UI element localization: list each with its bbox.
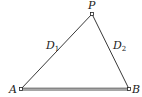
edge-d1-label: D1: [46, 40, 59, 53]
point-b-marker: [128, 88, 131, 91]
point-p-label: P: [88, 0, 95, 11]
point-p-marker: [91, 13, 94, 16]
edge-d2-label: D2: [113, 40, 126, 53]
point-a-marker: [20, 88, 23, 91]
point-b-label: B: [132, 84, 140, 95]
triangle-diagram: P A B D1 D2: [0, 0, 142, 97]
point-a-label: A: [9, 84, 17, 95]
